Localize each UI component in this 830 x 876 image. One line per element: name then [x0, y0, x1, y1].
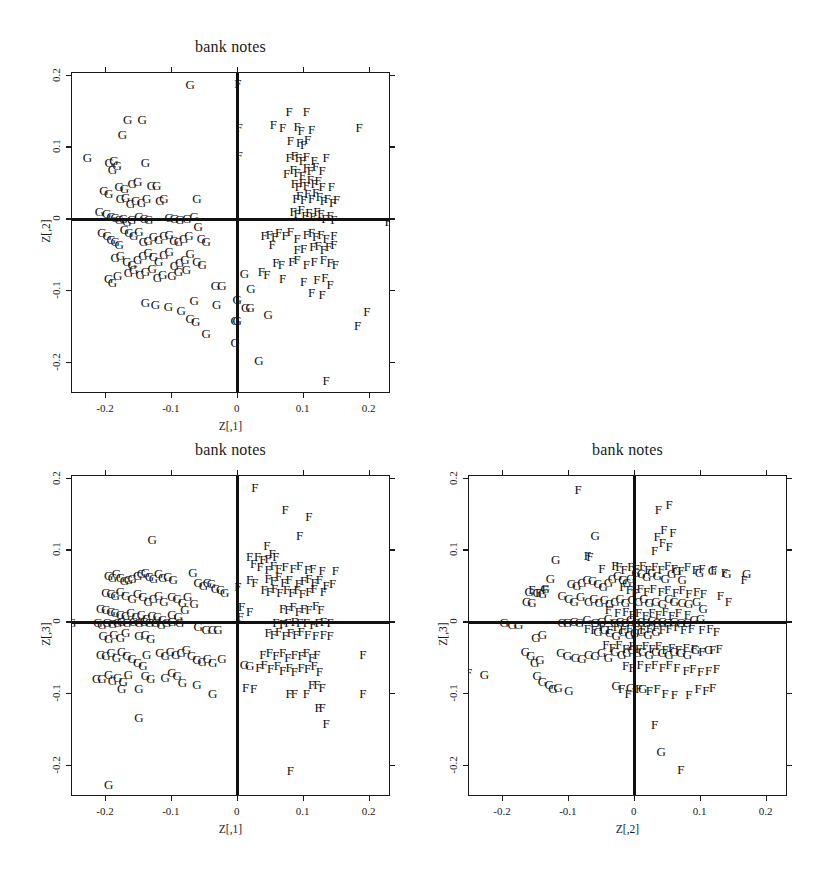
- y-tick-label: -0.2: [447, 754, 459, 776]
- data-point-F: F: [689, 662, 696, 675]
- data-point-G: G: [535, 653, 544, 666]
- data-point-F: F: [698, 561, 705, 574]
- data-point-F: F: [673, 660, 680, 673]
- panel-z2-z3: bank notesGGGGGGGGGGGGGGGGGGGGGGGGGGGGGG…: [0, 0, 830, 876]
- data-point-F: F: [586, 550, 593, 563]
- data-point-F: F: [625, 686, 632, 699]
- y-tick-label: -0.1: [447, 682, 459, 704]
- data-point-F: F: [697, 664, 704, 677]
- y-tick: [463, 765, 468, 767]
- data-point-F: F: [651, 657, 658, 670]
- x-tick-label: 0.1: [693, 805, 707, 817]
- y-axis-label: Z[,3]: [437, 599, 449, 669]
- x-tick-top: [634, 470, 636, 475]
- x-tick-label: -0.1: [559, 805, 576, 817]
- data-point-F: F: [680, 623, 687, 636]
- data-point-F: F: [694, 682, 701, 695]
- data-point-F: F: [698, 623, 705, 636]
- data-point-G: G: [551, 552, 560, 565]
- data-point-F: F: [655, 502, 662, 515]
- x-tick-top: [700, 470, 702, 475]
- y-tick-right: [787, 478, 792, 480]
- data-point-F: F: [605, 603, 612, 616]
- plot-frame: GGGGGGGGGGGGGGGGGGGGGGGGGGGGGGGGGGGGGGGG…: [468, 475, 787, 796]
- x-tick-label: -0.2: [493, 805, 510, 817]
- data-point-F: F: [721, 565, 728, 578]
- data-point-F: F: [665, 657, 672, 670]
- data-point-F: F: [598, 561, 605, 574]
- y-tick: [463, 478, 468, 480]
- data-point-F: F: [614, 606, 621, 619]
- y-tick-right: [787, 693, 792, 695]
- data-point-F: F: [684, 560, 691, 573]
- data-point-F: F: [665, 621, 672, 634]
- data-point-F: F: [651, 544, 658, 557]
- data-point-F: F: [713, 624, 720, 637]
- data-point-F: F: [710, 562, 717, 575]
- y-tick: [463, 549, 468, 551]
- data-point-F: F: [671, 687, 678, 700]
- data-point-F: F: [665, 498, 672, 511]
- y-tick-label: 0.2: [447, 467, 459, 489]
- data-point-F: F: [700, 587, 707, 600]
- data-point-F: F: [635, 682, 642, 695]
- data-point-G: G: [538, 627, 547, 640]
- data-point-F: F: [713, 662, 720, 675]
- x-tick: [766, 796, 768, 801]
- data-point-F: F: [709, 680, 716, 693]
- y-tick-right: [787, 765, 792, 767]
- data-point-F: F: [542, 583, 549, 596]
- data-point-F: F: [683, 640, 690, 653]
- data-point-F: F: [741, 573, 748, 586]
- data-point-F: F: [636, 657, 643, 670]
- data-point-G: G: [554, 680, 563, 693]
- y-tick: [463, 693, 468, 695]
- data-point-F: F: [684, 607, 691, 620]
- data-point-F: F: [685, 687, 692, 700]
- data-point-F: F: [590, 623, 597, 636]
- data-point-F: F: [685, 587, 692, 600]
- data-point-F: F: [651, 718, 658, 731]
- data-point-F: F: [664, 583, 671, 596]
- data-point-F: F: [690, 641, 697, 654]
- data-point-F: F: [665, 540, 672, 553]
- data-point-F: F: [705, 663, 712, 676]
- data-point-F: F: [654, 682, 661, 695]
- x-tick: [634, 796, 636, 801]
- data-point-F: F: [650, 581, 657, 594]
- data-point-G: G: [514, 618, 523, 631]
- x-axis-label: Z[,2]: [468, 823, 787, 835]
- data-point-F: F: [661, 686, 668, 699]
- plot-title: bank notes: [468, 441, 787, 459]
- x-tick: [502, 796, 504, 801]
- x-tick: [568, 796, 570, 801]
- y-tick-right: [787, 621, 792, 623]
- data-point-F: F: [677, 762, 684, 775]
- x-tick: [700, 796, 702, 801]
- data-point-F: F: [574, 482, 581, 495]
- data-point-G: G: [564, 683, 573, 696]
- data-point-G: G: [480, 667, 489, 680]
- data-point-F: F: [675, 606, 682, 619]
- data-point-F: F: [698, 644, 705, 657]
- y-tick: [463, 621, 468, 623]
- data-point-F: F: [725, 594, 732, 607]
- data-point-F: F: [468, 666, 472, 679]
- x-tick-label: 0: [631, 805, 637, 817]
- data-point-F: F: [675, 643, 682, 656]
- data-point-F: F: [716, 641, 723, 654]
- x-tick-top: [766, 470, 768, 475]
- data-point-F: F: [669, 525, 676, 538]
- data-point-F: F: [688, 621, 695, 634]
- data-point-F: F: [717, 588, 724, 601]
- data-point-F: F: [646, 683, 653, 696]
- data-point-G: G: [591, 528, 600, 541]
- y-tick-right: [787, 549, 792, 551]
- x-tick-top: [502, 470, 504, 475]
- data-point-G: G: [656, 745, 665, 758]
- x-tick-label: 0.2: [759, 805, 773, 817]
- data-point-F: F: [598, 620, 605, 633]
- x-tick-top: [568, 470, 570, 475]
- y-tick-label: 0.1: [447, 538, 459, 560]
- data-point-F: F: [629, 660, 636, 673]
